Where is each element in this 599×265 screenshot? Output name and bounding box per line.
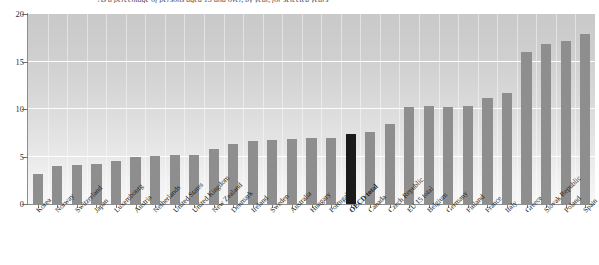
y-tick-20 [22, 14, 28, 15]
bar-slovak-republic[interactable] [541, 44, 551, 204]
vertical-gridline [87, 14, 88, 204]
y-tick-10 [22, 109, 28, 110]
vertical-gridline [517, 14, 518, 204]
vertical-gridline [243, 14, 244, 204]
vertical-gridline [282, 14, 283, 204]
bar-greece[interactable] [521, 52, 531, 204]
plot-area [28, 14, 595, 204]
vertical-gridline [478, 14, 479, 204]
vertical-gridline [126, 14, 127, 204]
y-tick-15 [22, 62, 28, 63]
y-tick-label-15: 15 [2, 57, 24, 67]
bar-italy[interactable] [502, 93, 512, 204]
gridline-15 [28, 61, 595, 62]
vertical-gridline [106, 14, 107, 204]
vertical-gridline [341, 14, 342, 204]
y-tick-label-5: 5 [2, 152, 24, 162]
vertical-gridline [48, 14, 49, 204]
y-tick-label-10: 10 [2, 104, 24, 114]
vertical-gridline [439, 14, 440, 204]
vertical-gridline [556, 14, 557, 204]
y-tick-0 [22, 204, 28, 205]
bar-sweden[interactable] [267, 140, 277, 204]
y-tick-5 [22, 157, 28, 158]
vertical-gridline [536, 14, 537, 204]
bar-luxembourg[interactable] [111, 161, 121, 204]
y-tick-label-20: 20 [2, 9, 24, 19]
x-axis-labels: KoreaNorwaySwitzerlandJapanLuxembourgAus… [0, 206, 596, 265]
chart-title: As a percentage of persons aged 15 and o… [98, 0, 518, 3]
vertical-gridline [380, 14, 381, 204]
bar-germany[interactable] [443, 107, 453, 204]
bar-australia[interactable] [287, 139, 297, 204]
vertical-gridline [263, 14, 264, 204]
vertical-gridline [67, 14, 68, 204]
vertical-gridline [399, 14, 400, 204]
vertical-gridline [302, 14, 303, 204]
vertical-gridline [360, 14, 361, 204]
bar-france[interactable] [482, 98, 492, 204]
vertical-gridline [458, 14, 459, 204]
vertical-gridline [184, 14, 185, 204]
vertical-gridline [145, 14, 146, 204]
bar-czech-republic[interactable] [385, 124, 395, 204]
vertical-gridline [321, 14, 322, 204]
vertical-gridline [497, 14, 498, 204]
vertical-gridline [165, 14, 166, 204]
vertical-gridline [204, 14, 205, 204]
